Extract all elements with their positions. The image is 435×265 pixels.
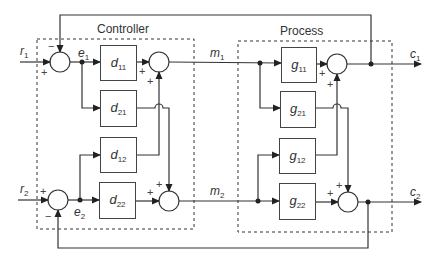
block-d11-symbol: d (111, 55, 118, 70)
block-d22: d22 (99, 182, 136, 219)
block-d21-symbol: d (110, 100, 117, 115)
block-g11: g11 (281, 47, 317, 83)
signal-c2: c2 (410, 186, 420, 201)
signal-r1: r1 (20, 45, 28, 60)
node-c2 (366, 200, 371, 205)
sum-junction-6 (338, 192, 358, 212)
block-d12-subscript: 12 (118, 155, 127, 164)
sum-junction-3 (149, 52, 169, 72)
block-d22-subscript: 22 (117, 200, 126, 209)
block-g21: g21 (280, 91, 316, 128)
block-g11-subscript: 11 (298, 65, 306, 74)
process-label: Process (280, 25, 323, 37)
block-g22-symbol: g (289, 193, 296, 208)
block-g12: g12 (279, 138, 316, 174)
block-g12-symbol: g (289, 148, 296, 163)
block-d12: d12 (100, 137, 137, 173)
sign-sum1-feedback: − (48, 41, 54, 52)
controller-label: Controller (97, 23, 149, 35)
block-d11: d11 (100, 45, 137, 81)
block-g21-subscript: 21 (297, 109, 306, 118)
sign-sum3-a: + (139, 66, 145, 77)
block-g22-subscript: 22 (297, 201, 306, 210)
sum-junction-4 (159, 191, 179, 211)
sign-sum2-feedback: − (45, 211, 51, 222)
node-c1 (369, 62, 374, 67)
block-d21-subscript: 21 (118, 108, 127, 117)
sign-sum2-reference: + (40, 186, 46, 197)
block-d21: d21 (100, 90, 137, 127)
node-m1 (258, 61, 263, 66)
sign-sum4-a: + (147, 187, 153, 198)
diagram-wires (0, 0, 435, 265)
sum-junction-2 (48, 190, 68, 210)
node-m2 (256, 199, 261, 204)
block-d22-symbol: d (109, 192, 116, 207)
sign-sum5-b: + (327, 79, 333, 90)
signal-c1: c1 (410, 48, 420, 63)
sign-sum4-b: + (156, 179, 162, 190)
block-g12-subscript: 12 (297, 156, 306, 165)
signal-m1: m1 (210, 47, 224, 62)
sign-sum1-reference: + (41, 67, 47, 78)
sign-sum6-b: + (336, 180, 342, 191)
sum-junction-1 (50, 52, 70, 72)
block-d12-symbol: d (110, 147, 117, 162)
sign-sum3-b: + (147, 76, 153, 87)
block-diagram: Controller Process d11 d21 d12 d22 g11 g… (0, 0, 435, 265)
sign-sum5-a: + (319, 68, 325, 79)
signal-e2: e2 (74, 206, 85, 221)
signal-m2: m2 (210, 185, 224, 200)
node-e2 (78, 198, 83, 203)
signal-r2: r2 (20, 183, 28, 198)
sum-junction-5 (327, 54, 347, 74)
signal-e1: e1 (78, 47, 89, 62)
block-d11-subscript: 11 (118, 63, 126, 72)
sign-sum6-a: + (327, 188, 333, 199)
block-g22: g22 (279, 183, 316, 220)
